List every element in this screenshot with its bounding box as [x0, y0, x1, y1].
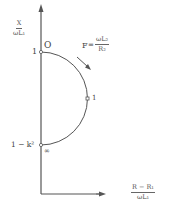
- direction-arrow-line: [77, 57, 88, 67]
- x-axis-label-num: R − R₁: [131, 184, 155, 193]
- y-axis-label-num: X: [16, 20, 23, 29]
- point-bottom-marker-icon: [39, 143, 42, 146]
- y-axis-arrow-icon: [39, 4, 44, 12]
- point-top-marker-icon: [39, 50, 42, 53]
- top-value-label: 1: [32, 48, 37, 56]
- parameter-num: ωL₂: [95, 36, 109, 45]
- parameter-fraction: ωL₂ R₂: [95, 36, 109, 52]
- y-axis-label: X ωL₁: [13, 20, 25, 36]
- y-axis-label-den: ωL₁: [13, 29, 25, 37]
- x-axis-label: R − R₁ ωL₁: [131, 184, 155, 200]
- point-mid-marker-icon: [86, 97, 89, 100]
- bottom-marker-label: ∞: [44, 148, 50, 155]
- x-axis-arrow-icon: [99, 192, 106, 197]
- circle-locus: [41, 52, 87, 145]
- parameter-name: F: [82, 42, 88, 50]
- top-marker-label: O: [44, 41, 51, 50]
- x-axis-label-den: ωL₁: [137, 193, 149, 201]
- mid-marker-label: 1: [92, 95, 96, 102]
- diagram-canvas: [0, 0, 173, 209]
- parameter-den: R₂: [98, 45, 106, 53]
- bottom-value-label: 1 − k²: [11, 141, 34, 149]
- parameter-eq: =: [88, 42, 94, 49]
